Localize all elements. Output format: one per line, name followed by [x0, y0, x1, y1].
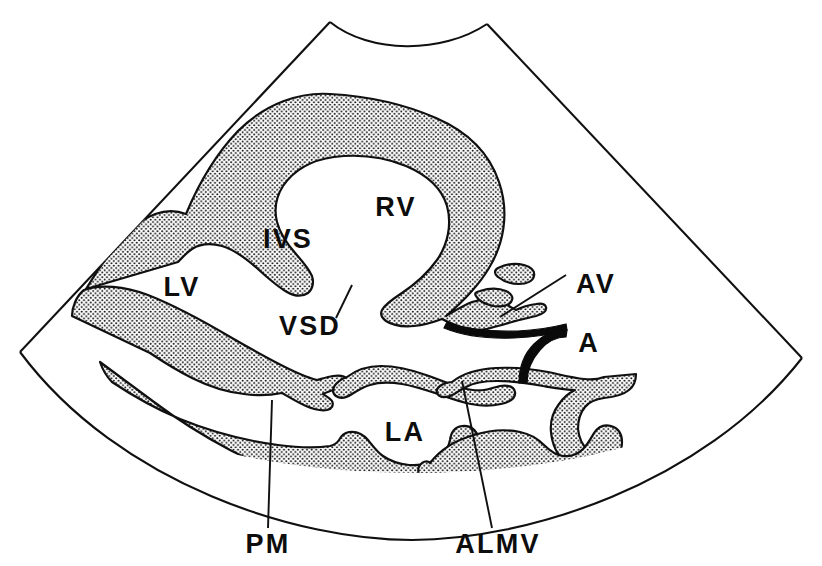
sector-outline-group [20, 22, 802, 540]
label-almv: ALMV [455, 529, 540, 559]
label-vsd: VSD [279, 311, 341, 341]
echo-diagram-svg: RV IVS LV VSD AV A LA PM ALMV [0, 0, 822, 566]
label-lv: LV [164, 272, 201, 302]
rv-outflow-fleck-upper [495, 264, 534, 284]
label-la: LA [385, 417, 425, 447]
tissue-group [72, 94, 643, 503]
label-av: AV [576, 269, 616, 299]
pm-leader-line [268, 400, 272, 528]
sector-top-arc [330, 22, 487, 46]
label-ivs: IVS [263, 224, 313, 254]
echocardiogram-figure: RV IVS LV VSD AV A LA PM ALMV [0, 0, 822, 566]
label-rv: RV [375, 192, 416, 222]
label-a: A [578, 328, 600, 358]
lv-posterior-wall-upper [72, 287, 348, 411]
label-pm: PM [246, 529, 291, 559]
